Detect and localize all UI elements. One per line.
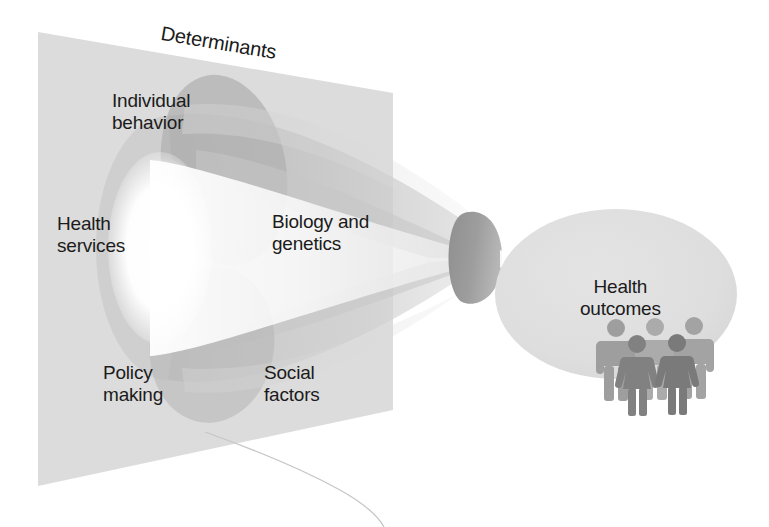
label-health-services: Health services xyxy=(57,213,125,257)
label-policy-making: Policy making xyxy=(103,362,163,406)
label-health-outcomes: Health outcomes xyxy=(580,276,661,320)
determinants-health-outcomes-diagram: Determinants Individual behavior Health … xyxy=(0,0,769,527)
label-individual-behavior: Individual behavior xyxy=(112,90,190,134)
paper-crease-hairline xyxy=(205,432,384,527)
cone-tip-nozzle xyxy=(449,212,503,304)
label-social-factors: Social factors xyxy=(264,362,320,406)
diagram-canvas xyxy=(0,0,769,527)
label-biology-and-genetics: Biology and genetics xyxy=(272,211,369,255)
